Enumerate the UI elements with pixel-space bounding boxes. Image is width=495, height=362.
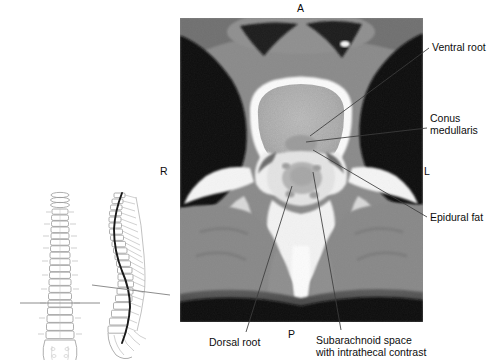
label-ventral-root: Ventral root: [432, 41, 486, 53]
spine-ap-diagram: [18, 185, 102, 360]
orientation-marker-left: L: [424, 165, 430, 177]
orientation-marker-anterior: A: [297, 2, 304, 14]
label-epidural-fat: Epidural fat: [430, 211, 483, 223]
ct-axial-image: [180, 18, 423, 322]
label-conus-medullaris-line1: Conus: [430, 112, 460, 124]
label-subarachnoid-space: Subarachnoid spacewith intrathecal contr…: [316, 334, 426, 358]
spinal-cord-curve: [114, 193, 130, 343]
figure-axial-lumbar-ct: A R L P Ventral root Conusmedullaris Epi…: [0, 0, 495, 362]
label-conus-medullaris-line2: medullaris: [430, 124, 478, 136]
spine-lateral-diagram: [92, 185, 178, 360]
label-subarachnoid-space-line1: Subarachnoid space: [316, 334, 412, 346]
label-subarachnoid-space-line2: with intrathecal contrast: [316, 346, 426, 358]
orientation-marker-posterior: P: [288, 328, 295, 340]
slice-level-line-lateral: [92, 285, 170, 295]
label-conus-medullaris: Conusmedullaris: [430, 112, 478, 136]
label-dorsal-root: Dorsal root: [209, 336, 260, 348]
orientation-marker-right: R: [160, 165, 168, 177]
ct-image-panel: [180, 18, 423, 322]
